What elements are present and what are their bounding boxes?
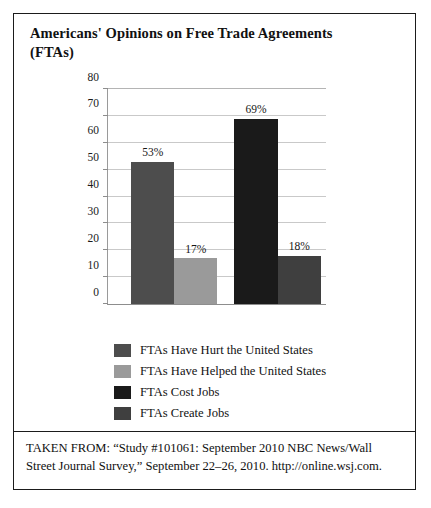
y-axis-tick bbox=[103, 115, 108, 116]
y-axis-tick bbox=[103, 276, 108, 277]
bar: 18% bbox=[278, 256, 321, 304]
plot-area: 0102030405060708053%17%69%18% bbox=[107, 89, 326, 305]
legend-item-label: FTAs Cost Jobs bbox=[140, 386, 219, 399]
y-axis-label: 40 bbox=[88, 179, 100, 191]
chart-legend: FTAs Have Hurt the United StatesFTAs Hav… bbox=[114, 340, 394, 424]
bar: 69% bbox=[234, 119, 277, 304]
legend-item: FTAs Create Jobs bbox=[114, 403, 394, 424]
y-axis-tick bbox=[103, 222, 108, 223]
bar: 53% bbox=[131, 162, 174, 304]
bar-value-label: 53% bbox=[142, 147, 163, 159]
source-divider bbox=[14, 431, 415, 432]
y-axis-label: 70 bbox=[88, 99, 100, 111]
legend-swatch bbox=[114, 407, 131, 420]
legend-swatch bbox=[114, 365, 131, 378]
bar-value-label: 18% bbox=[289, 241, 310, 253]
figure-title: Americans' Opinions on Free Trade Agreem… bbox=[30, 24, 360, 62]
bar-value-label: 69% bbox=[245, 104, 266, 116]
legend-swatch bbox=[114, 386, 131, 399]
legend-swatch bbox=[114, 344, 131, 357]
y-axis-tick bbox=[103, 196, 108, 197]
legend-item: FTAs Have Helped the United States bbox=[114, 361, 394, 382]
y-axis-label: 80 bbox=[88, 72, 100, 84]
y-axis-tick bbox=[103, 142, 108, 143]
y-axis-label: 60 bbox=[88, 126, 100, 138]
legend-item-label: FTAs Create Jobs bbox=[140, 407, 229, 420]
bar-chart: 0102030405060708053%17%69%18% bbox=[14, 76, 415, 334]
y-axis-tick bbox=[103, 88, 108, 89]
legend-item: FTAs Cost Jobs bbox=[114, 382, 394, 403]
y-axis-tick bbox=[103, 169, 108, 170]
y-axis-label: 30 bbox=[88, 206, 100, 218]
figure-container: Americans' Opinions on Free Trade Agreem… bbox=[13, 13, 416, 490]
y-axis-label: 10 bbox=[88, 260, 100, 272]
y-axis-label: 20 bbox=[88, 233, 100, 245]
legend-item-label: FTAs Have Helped the United States bbox=[140, 365, 326, 378]
legend-item: FTAs Have Hurt the United States bbox=[114, 340, 394, 361]
bar: 17% bbox=[174, 258, 217, 304]
legend-item-label: FTAs Have Hurt the United States bbox=[140, 344, 313, 357]
gridline bbox=[108, 88, 326, 89]
gridline bbox=[108, 142, 326, 143]
y-axis-label: 50 bbox=[88, 152, 100, 164]
bar-value-label: 17% bbox=[185, 244, 206, 256]
y-axis-tick bbox=[103, 249, 108, 250]
y-axis-label: 0 bbox=[93, 287, 99, 299]
source-note: TAKEN FROM: “Study #101061: September 20… bbox=[26, 440, 404, 475]
y-axis-tick bbox=[103, 303, 108, 304]
gridline bbox=[108, 115, 326, 116]
